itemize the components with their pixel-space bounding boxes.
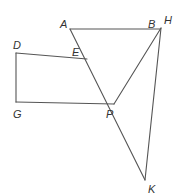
geometry-diagram: ABHDEGPK — [0, 0, 181, 196]
point-label-a: A — [59, 18, 67, 30]
segment-gp — [16, 102, 114, 104]
segment-ak — [70, 29, 145, 180]
point-label-g: G — [13, 108, 22, 120]
point-label-e: E — [72, 46, 80, 58]
point-label-d: D — [13, 39, 21, 51]
point-label-h: H — [164, 14, 172, 26]
segments — [16, 28, 161, 180]
point-label-k: K — [148, 183, 156, 195]
point-labels: ABHDEGPK — [13, 14, 172, 195]
point-label-p: P — [106, 108, 114, 120]
point-label-b: B — [148, 18, 155, 30]
